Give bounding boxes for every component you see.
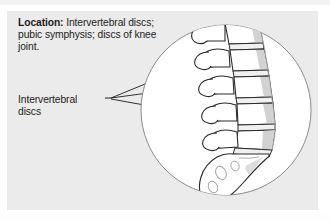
location-label: Location: xyxy=(18,17,63,28)
content-panel: Location: Intervertebral discs; pubic sy… xyxy=(7,11,318,210)
spine-illustration xyxy=(139,17,313,203)
callout-label-intervertebral-discs: Intervertebral discs xyxy=(18,94,114,118)
callout-label-line-1: Intervertebral xyxy=(18,94,114,106)
page-top-band xyxy=(0,0,330,5)
coccyx xyxy=(200,196,217,203)
spinous-process-l1 xyxy=(192,26,207,44)
page-bottom-band xyxy=(0,214,330,221)
callout-label-line-2: discs xyxy=(18,106,114,118)
